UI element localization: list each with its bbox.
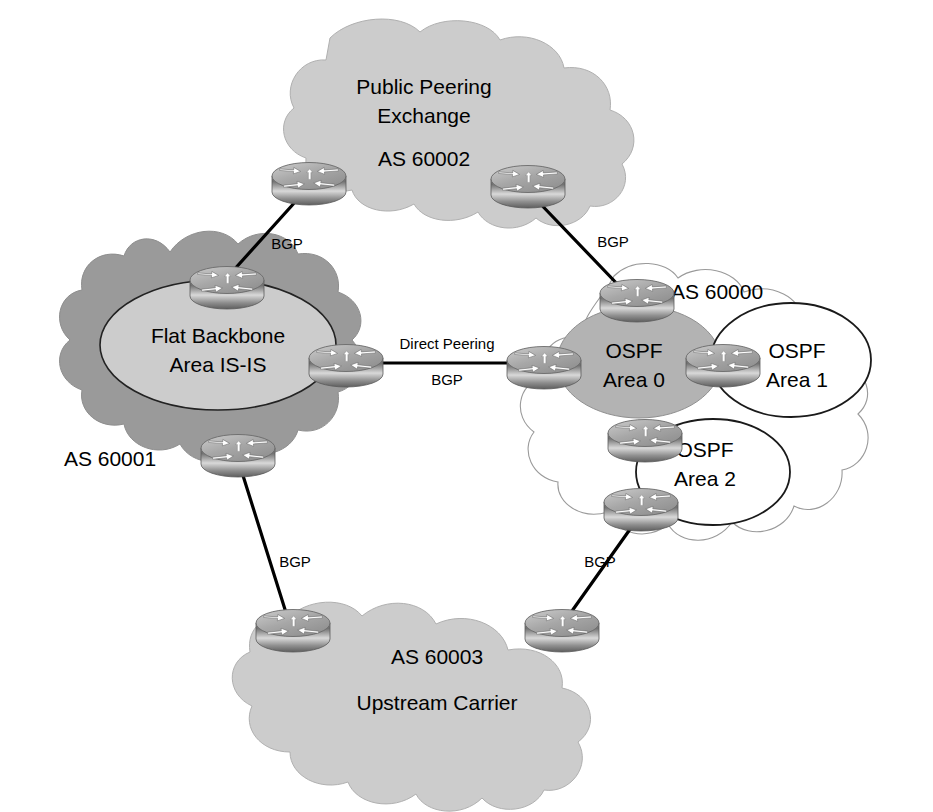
router-as60000-left[interactable]	[507, 347, 581, 390]
ospf-area-1-title-line1: OSPF	[768, 339, 825, 362]
link-label-as60002-as60000: BGP	[597, 233, 629, 250]
router-as60000-abr1[interactable]	[686, 345, 760, 388]
router-as60003-left[interactable]	[256, 610, 330, 653]
as-60001-label: AS 60001	[64, 447, 156, 470]
flat-backbone-title-line1: Flat Backbone	[151, 324, 285, 347]
router-as60000-bottom[interactable]	[604, 489, 678, 532]
as-60002-label: AS 60002	[378, 147, 470, 170]
as-60000-label: AS 60000	[671, 280, 763, 303]
upstream-carrier-title: Upstream Carrier	[356, 691, 517, 714]
router-as60001-top[interactable]	[190, 267, 264, 310]
network-topology-canvas: Public Peering Exchange AS 60002 Flat Ba…	[0, 0, 933, 812]
public-peering-title-line1: Public Peering	[356, 75, 491, 98]
link-label-as60001-as60003: BGP	[279, 553, 311, 570]
network-diagram: Public Peering Exchange AS 60002 Flat Ba…	[0, 0, 933, 812]
router-as60001-right[interactable]	[309, 345, 383, 388]
ospf-area-2-title-line1: OSPF	[676, 438, 733, 461]
router-as60002-left[interactable]	[272, 163, 346, 206]
link-label-as60000-as60003: BGP	[584, 553, 616, 570]
flat-backbone-title-line2: Area IS-IS	[170, 353, 267, 376]
ospf-area-1-title-line2: Area 1	[766, 368, 828, 391]
router-as60000-abr2[interactable]	[608, 420, 682, 463]
ospf-area-2-title-line2: Area 2	[674, 467, 736, 490]
link-as60001-to-as60003[interactable]	[240, 466, 288, 619]
link-label-direct-peering-bgp: BGP	[431, 371, 463, 388]
link-label-as60001-as60002: BGP	[271, 235, 303, 252]
router-as60000-top[interactable]	[600, 280, 674, 323]
router-as60001-bottom[interactable]	[201, 435, 275, 478]
ospf-area-0-title-line1: OSPF	[605, 339, 662, 362]
ospf-area-0-title-line2: Area 0	[603, 368, 665, 391]
router-as60003-right[interactable]	[525, 610, 599, 653]
router-as60002-right[interactable]	[491, 166, 565, 209]
link-label-direct-peering: Direct Peering	[399, 335, 494, 352]
as-60003-label: AS 60003	[391, 645, 483, 668]
public-peering-title-line2: Exchange	[377, 104, 470, 127]
as-60000-cloud: AS 60000 OSPF Area 0 OSPF Area 1 OSPF Ar…	[520, 263, 871, 540]
